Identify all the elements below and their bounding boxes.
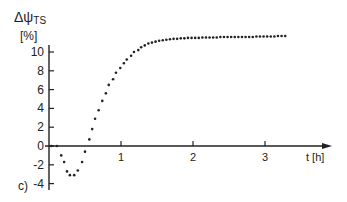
data-point [169, 38, 172, 41]
data-point [115, 71, 118, 74]
y-tick-label: 6 [37, 83, 44, 97]
data-point [133, 51, 136, 54]
data-point [241, 36, 244, 39]
data-point [97, 109, 100, 112]
data-point [125, 58, 128, 61]
data-point [140, 46, 143, 49]
data-point [77, 169, 80, 172]
data-point [158, 39, 161, 42]
data-point [212, 36, 215, 39]
data-point [205, 36, 208, 39]
data-point [143, 44, 146, 47]
data-point [262, 35, 265, 38]
data-point [154, 40, 157, 43]
data-point [251, 36, 254, 39]
data-point [280, 35, 283, 38]
data-point [151, 41, 154, 44]
data-point [244, 36, 247, 39]
data-point [105, 92, 108, 95]
data-point [201, 36, 204, 39]
data-point [56, 145, 59, 148]
data-point [101, 100, 104, 103]
y-axis-unit: [%] [20, 29, 37, 43]
data-point [176, 38, 179, 41]
data-point [259, 35, 262, 38]
data-point [69, 174, 72, 177]
y-tick-label: -4 [33, 177, 44, 191]
panel-label: c) [18, 179, 28, 193]
y-tick-label: 4 [37, 101, 44, 115]
data-point [107, 84, 110, 87]
data-point [50, 145, 53, 148]
data-point [208, 36, 211, 39]
data-point [266, 35, 269, 38]
data-point [112, 78, 115, 81]
data-point [73, 174, 76, 177]
y-ticks: 1086420-2-4 [31, 45, 54, 191]
x-tick-label: 1 [118, 151, 124, 163]
x-axis-label: t [h] [306, 151, 324, 163]
data-point [63, 161, 66, 164]
data-point [119, 67, 122, 70]
data-point [137, 49, 140, 52]
data-point [94, 117, 97, 120]
data-point [130, 54, 133, 57]
data-point [269, 35, 272, 38]
chart: 1086420-2-4 123 ΔψTS [%] t [h] c) [0, 0, 347, 202]
data-point [248, 36, 251, 39]
data-point [277, 35, 280, 38]
data-point [123, 62, 126, 65]
y-tick-label: 10 [31, 45, 45, 59]
data-point [237, 36, 240, 39]
y-axis-label: ΔψTS [14, 9, 46, 26]
data-point [223, 36, 226, 39]
data-point [88, 138, 91, 141]
data-point [194, 37, 197, 40]
data-point [215, 36, 218, 39]
data-point [81, 161, 84, 164]
data-point [197, 37, 200, 40]
data-point [161, 39, 164, 42]
data-point [284, 35, 287, 38]
data-point [172, 38, 175, 41]
data-point [91, 128, 94, 131]
x-axis-arrow-icon [322, 143, 332, 149]
data-point [66, 170, 69, 173]
data-point [233, 36, 236, 39]
data-point [179, 37, 182, 40]
y-tick-label: -2 [33, 158, 44, 172]
data-point [183, 37, 186, 40]
x-tick-label: 3 [262, 151, 268, 163]
x-tick-label: 2 [190, 151, 196, 163]
x-ticks: 123 [118, 141, 268, 163]
y-tick-label: 2 [37, 120, 44, 134]
data-point [165, 38, 168, 41]
y-tick-label: 0 [37, 139, 44, 153]
data-point [255, 35, 258, 38]
data-point [147, 42, 150, 45]
data-point [190, 37, 193, 40]
data-point [84, 150, 87, 153]
data-point [187, 37, 190, 40]
data-point [230, 36, 233, 39]
data-point [60, 154, 63, 157]
y-tick-label: 8 [37, 64, 44, 78]
data-point [226, 36, 229, 39]
data-point [219, 36, 222, 39]
data-point [273, 35, 276, 38]
data-points [50, 35, 287, 177]
